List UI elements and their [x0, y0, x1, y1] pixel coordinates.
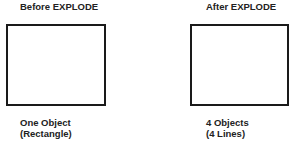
rectangle-four-lines	[190, 24, 289, 106]
after-title: After EXPLODE	[206, 1, 276, 12]
after-caption: 4 Objects (4 Lines)	[206, 117, 249, 139]
after-caption-line2: (4 Lines)	[206, 128, 249, 139]
rectangle-single-object	[6, 24, 106, 106]
before-caption: One Object (Rectangle)	[20, 117, 72, 139]
after-caption-line1: 4 Objects	[206, 117, 249, 128]
before-title: Before EXPLODE	[20, 1, 98, 12]
before-caption-line2: (Rectangle)	[20, 128, 72, 139]
before-caption-line1: One Object	[20, 117, 72, 128]
